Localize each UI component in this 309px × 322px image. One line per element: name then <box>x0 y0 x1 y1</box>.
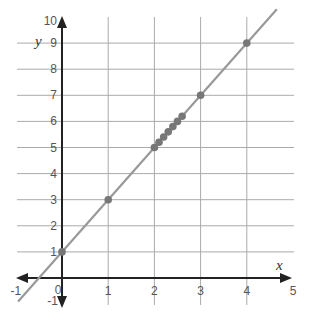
y-tick-label: 3 <box>50 193 57 207</box>
y-tick-label: 7 <box>50 88 57 102</box>
data-point <box>58 248 66 256</box>
data-point <box>197 92 205 100</box>
x-axis-arrow-right-icon <box>280 273 292 283</box>
x-tick-label: 5 <box>290 284 297 298</box>
x-tick-label: -1 <box>10 284 21 298</box>
y-tick-label: 6 <box>50 114 57 128</box>
x-tick-label: 4 <box>243 284 250 298</box>
y-tick-label: -1 <box>47 294 58 308</box>
x-tick-label: 1 <box>105 284 112 298</box>
data-point <box>178 112 186 120</box>
y-tick-label: 4 <box>50 167 57 181</box>
y-axis-arrow-down-icon <box>57 296 67 308</box>
x-tick-label: 2 <box>151 284 158 298</box>
x-axis-label: x <box>275 257 283 273</box>
y-tick-label: 9 <box>50 36 57 50</box>
y-tick-label: 10 <box>44 14 58 28</box>
y-tick-label: 5 <box>50 141 57 155</box>
data-point <box>104 196 112 204</box>
y-axis-label: y <box>33 33 42 49</box>
y-tick-label: 2 <box>50 219 57 233</box>
x-tick-label: 3 <box>197 284 204 298</box>
chart: -1012345-112345678910yx <box>0 0 309 322</box>
regression-line <box>18 9 277 301</box>
data-point <box>243 39 251 47</box>
x-axis-arrow-left-icon <box>16 273 28 283</box>
y-axis-arrow-up-icon <box>57 16 67 28</box>
y-tick-label: 8 <box>50 62 57 76</box>
